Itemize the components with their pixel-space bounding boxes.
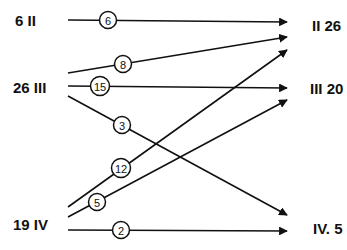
flow-value-label: 3 <box>119 120 125 132</box>
left-nodes: 6 II26 III19 IV <box>13 12 48 233</box>
flow-value-label: 8 <box>120 59 126 71</box>
edge-IV-to-III: 5 <box>68 100 287 217</box>
edge-III-to-III: 15 <box>68 77 287 96</box>
target-node-II: II 26 <box>312 17 341 34</box>
flow-value-label: 15 <box>94 81 106 93</box>
flow-value-label: 12 <box>115 163 127 175</box>
edge-IV-to-II: 12 <box>68 50 287 207</box>
target-node-III: III 20 <box>310 80 343 97</box>
source-node-IV: 19 IV <box>13 216 48 233</box>
source-node-II: 6 II <box>15 12 36 29</box>
edge-III-to-II: 8 <box>68 37 287 73</box>
arrow-line <box>68 37 287 73</box>
arrow-line <box>68 50 287 207</box>
edge-II-to-II: 6 <box>68 12 287 29</box>
target-node-IV: IV. 5 <box>313 220 342 237</box>
flow-value-label: 6 <box>105 15 111 27</box>
right-nodes: II 26III 20IV. 5 <box>310 17 343 237</box>
source-node-III: 26 III <box>13 79 46 96</box>
edges: 681531252 <box>68 12 287 239</box>
flow-value-label: 2 <box>118 225 124 237</box>
flow-value-label: 5 <box>94 197 100 209</box>
flow-diagram: 681531252 6 II26 III19 IV II 26III 20IV.… <box>0 0 347 250</box>
edge-IV-to-IV: 2 <box>68 222 287 239</box>
arrow-line <box>68 230 287 231</box>
